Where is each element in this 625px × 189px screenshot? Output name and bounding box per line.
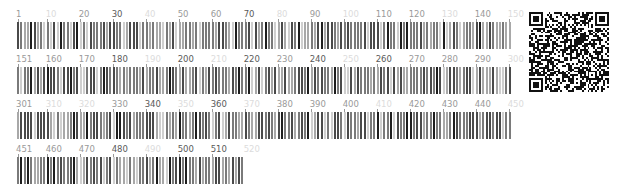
residue-bar <box>489 22 491 49</box>
position-label: 410 <box>376 99 392 109</box>
residue-bar <box>146 157 148 184</box>
residue-bar <box>34 22 36 49</box>
residue-bar <box>406 112 408 139</box>
position-label: 100 <box>343 9 359 19</box>
residue-bar <box>284 67 286 94</box>
residue-bar <box>463 67 465 94</box>
residue-bar <box>172 22 174 49</box>
residue-bar <box>324 67 326 94</box>
residue-bar <box>83 22 85 49</box>
residue-bar <box>136 112 138 139</box>
residue-bar <box>96 112 98 139</box>
residue-bar <box>212 22 214 49</box>
residue-bar <box>109 157 111 184</box>
residue-bar <box>430 22 432 49</box>
residue-bar <box>281 22 283 49</box>
residue-bar <box>377 112 379 139</box>
residue-bar <box>202 112 204 139</box>
residue-bar <box>129 67 131 94</box>
residue-bar <box>400 112 402 139</box>
residue-bar <box>255 67 257 94</box>
residue-bar <box>47 67 49 94</box>
residue-bar <box>149 22 151 49</box>
residue-bar <box>406 67 408 94</box>
residue-bar <box>129 112 131 139</box>
residue-bar <box>166 112 168 139</box>
residue-bar <box>248 67 250 94</box>
residue-bar <box>344 22 346 49</box>
residue-bar <box>185 112 187 139</box>
residue-bar <box>317 22 319 49</box>
residue-bar <box>232 157 234 184</box>
residue-bar <box>43 67 45 94</box>
residue-bar <box>357 67 359 94</box>
residue-bar <box>340 112 342 139</box>
residue-bar <box>34 112 36 139</box>
residue-bar <box>17 67 19 94</box>
residue-bar <box>278 67 280 94</box>
residue-bar <box>446 67 448 94</box>
position-label: 90 <box>310 9 321 19</box>
residue-bar <box>100 112 102 139</box>
residue-bar <box>83 157 85 184</box>
position-label: 130 <box>442 9 458 19</box>
position-label: 230 <box>277 54 293 64</box>
residue-bar <box>311 67 313 94</box>
residue-bar <box>113 157 115 184</box>
residue-bar <box>37 112 39 139</box>
residue-bar <box>169 67 171 94</box>
position-label: 140 <box>475 9 491 19</box>
residue-bar <box>113 112 115 139</box>
residue-bar <box>205 22 207 49</box>
residue-bar <box>340 22 342 49</box>
residue-bar <box>106 112 108 139</box>
residue-bar <box>179 157 181 184</box>
residue-bar <box>189 157 191 184</box>
residue-bar <box>476 112 478 139</box>
residue-bar <box>189 67 191 94</box>
residue-bar <box>20 112 22 139</box>
residue-bar <box>37 157 39 184</box>
residue-bar <box>354 22 356 49</box>
residue-bar <box>40 157 42 184</box>
residue-bar <box>294 22 296 49</box>
residue-bar <box>241 67 243 94</box>
residue-bar <box>307 112 309 139</box>
residue-bar <box>166 157 168 184</box>
residue-bar <box>100 67 102 94</box>
residue-bar <box>63 22 65 49</box>
position-label: 1 <box>16 9 21 19</box>
residue-bar <box>347 112 349 139</box>
residue-bar <box>486 22 488 49</box>
position-label: 160 <box>46 54 62 64</box>
residue-bar <box>321 112 323 139</box>
residue-bar <box>146 22 148 49</box>
residue-bar <box>453 22 455 49</box>
residue-bar <box>410 22 412 49</box>
residue-bar <box>208 22 210 49</box>
residue-bar <box>430 112 432 139</box>
residue-bar <box>228 112 230 139</box>
residue-bar <box>420 22 422 49</box>
position-label: 470 <box>79 144 95 154</box>
residue-bar <box>192 67 194 94</box>
residue-bar <box>228 22 230 49</box>
residue-bar <box>311 112 313 139</box>
residue-bar <box>238 22 240 49</box>
residue-bar <box>331 112 333 139</box>
residue-bar <box>337 67 339 94</box>
residue-bar <box>265 112 267 139</box>
residue-bar <box>410 67 412 94</box>
residue-bar <box>347 22 349 49</box>
residue-bar <box>109 67 111 94</box>
residue-bar <box>449 112 451 139</box>
residue-bar <box>469 22 471 49</box>
residue-bar <box>377 67 379 94</box>
residue-bar <box>96 67 98 94</box>
residue-bar <box>185 157 187 184</box>
residue-bar <box>294 112 296 139</box>
residue-bar <box>47 112 49 139</box>
residue-bar <box>261 67 263 94</box>
position-label: 510 <box>211 144 227 154</box>
residue-bar <box>383 112 385 139</box>
